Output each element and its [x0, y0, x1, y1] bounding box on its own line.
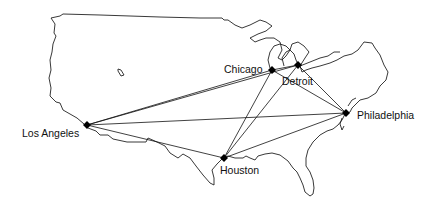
route-chicago-houston [224, 70, 272, 158]
city-label-philadelphia: Philadelphia [357, 110, 414, 121]
us-outline [49, 14, 388, 196]
route-los_angeles-philadelphia [87, 113, 346, 125]
city-label-chicago: Chicago [224, 64, 263, 75]
city-marker-houston [220, 154, 228, 162]
city-label-houston: Houston [220, 165, 259, 176]
route-los_angeles-detroit [87, 65, 298, 125]
city-marker-los_angeles [83, 121, 91, 129]
route-los_angeles-houston [87, 125, 224, 158]
city-label-los-angeles: Los Angeles [22, 128, 79, 139]
city-label-detroit: Detroit [282, 76, 313, 87]
us-route-map [0, 0, 434, 209]
route-chicago-detroit [272, 65, 298, 70]
